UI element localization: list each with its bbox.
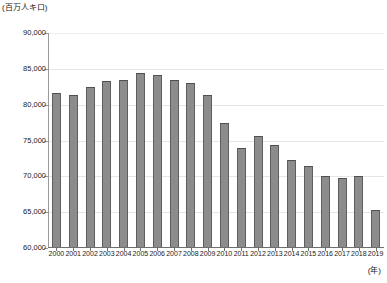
x-axis-line (48, 247, 384, 248)
bar (170, 80, 179, 248)
bar (86, 87, 95, 248)
bar (186, 83, 195, 248)
bar (338, 178, 347, 248)
bar (237, 148, 246, 248)
bar (203, 95, 212, 248)
bar (354, 176, 363, 248)
y-tick-label: 70,000 (2, 172, 46, 180)
y-tick-label: 65,000 (2, 208, 46, 216)
bar (220, 123, 229, 248)
bar (102, 81, 111, 248)
bar (153, 75, 162, 248)
gridline (48, 105, 384, 106)
y-tick-label: 80,000 (2, 101, 46, 109)
y-axis-line (48, 33, 49, 248)
bar (321, 176, 330, 248)
y-tick-label: 85,000 (2, 65, 46, 73)
bar (270, 145, 279, 248)
bar (136, 73, 145, 248)
y-axis-unit-label: (百万人キロ) (2, 3, 47, 13)
plot-area (48, 33, 384, 248)
y-tick-label: 60,000 (2, 244, 46, 252)
bar (52, 93, 61, 248)
bar (304, 166, 313, 248)
bar (371, 210, 380, 248)
bar (287, 160, 296, 248)
gridline (48, 176, 384, 177)
bar (254, 136, 263, 248)
gridline (48, 212, 384, 213)
y-tick-label: 90,000 (2, 29, 46, 37)
x-axis-unit-label: (年) (368, 266, 381, 275)
x-tick-label: 2019 (365, 250, 387, 258)
bar-chart: (百万人キロ) 60,00065,00070,00075,00080,00085… (0, 0, 387, 283)
gridline (48, 33, 384, 34)
bar (69, 95, 78, 248)
gridline (48, 69, 384, 70)
gridline (48, 141, 384, 142)
y-tick-label: 75,000 (2, 137, 46, 145)
bar (119, 80, 128, 248)
